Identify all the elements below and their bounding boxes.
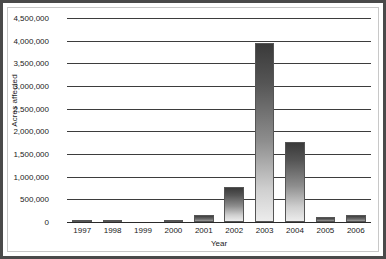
x-axis-title: Year [67, 239, 371, 248]
bar-slot [67, 18, 97, 222]
bar-series [67, 18, 371, 222]
bar[interactable] [103, 220, 122, 223]
bar-slot [97, 18, 127, 222]
bar[interactable] [346, 215, 365, 222]
bar-slot [280, 18, 310, 222]
bar[interactable] [255, 43, 274, 222]
y-tick-label: 3,000,000 [0, 82, 49, 91]
y-tick-label: 4,000,000 [0, 36, 49, 45]
y-tick-label: 0 [0, 218, 49, 227]
bar[interactable] [285, 142, 304, 222]
bar-slot [341, 18, 371, 222]
bar-slot [158, 18, 188, 222]
x-tick-label: 2005 [308, 226, 342, 235]
bar[interactable] [164, 220, 183, 223]
bar[interactable] [316, 217, 335, 222]
bar[interactable] [224, 187, 243, 222]
x-tick-label: 2002 [217, 226, 251, 235]
x-tick-label: 1999 [126, 226, 160, 235]
y-tick-label: 2,500,000 [0, 104, 49, 113]
bar-slot [189, 18, 219, 222]
x-axis-line [67, 222, 371, 223]
bar-slot [128, 18, 158, 222]
bar[interactable] [72, 220, 91, 223]
bar-chart: Acres affected 0500,0001,000,0001,500,00… [0, 0, 386, 259]
bar-slot [310, 18, 340, 222]
bar-slot [249, 18, 279, 222]
x-tick-label: 2001 [187, 226, 221, 235]
x-tick-label: 1997 [65, 226, 99, 235]
x-tick-label: 2003 [248, 226, 282, 235]
bar-slot [219, 18, 249, 222]
y-tick-label: 500,000 [0, 195, 49, 204]
y-tick-label: 1,500,000 [0, 150, 49, 159]
x-tick-label: 2000 [156, 226, 190, 235]
x-tick-label: 2006 [339, 226, 373, 235]
y-tick-label: 4,500,000 [0, 14, 49, 23]
y-tick-label: 1,000,000 [0, 172, 49, 181]
plot-area: 0500,0001,000,0001,500,0002,000,0002,500… [67, 18, 371, 222]
bar[interactable] [194, 215, 213, 222]
y-tick-label: 2,000,000 [0, 127, 49, 136]
y-tick-label: 3,500,000 [0, 59, 49, 68]
x-tick-label: 2004 [278, 226, 312, 235]
x-tick-label: 1998 [96, 226, 130, 235]
